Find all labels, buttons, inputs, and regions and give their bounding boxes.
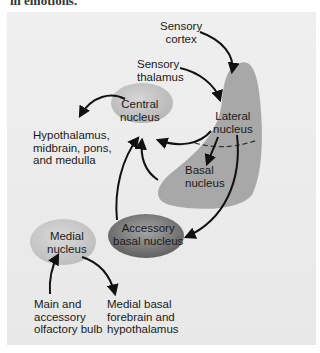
- arrow-sensory-thalamus-to-lateral: [180, 68, 220, 100]
- label-olfactory-bulb: Main and accessory olfactory bulb: [34, 298, 102, 336]
- arrow-sensory-cortex-to-lateral: [200, 32, 232, 72]
- arrow-lateral-to-central: [158, 131, 211, 144]
- arrow-accessory-to-central: [116, 138, 138, 220]
- arrow-basal-to-central: [142, 140, 158, 180]
- label-basal-nucleus: Basal nucleus: [185, 164, 225, 189]
- label-sensory-thalamus: Sensory thalamus: [137, 58, 184, 83]
- label-medial-basal-forebrain-hypothalamus: Medial basal forebrain and hypothalamus: [107, 298, 179, 336]
- label-sensory-cortex: Sensory cortex: [160, 20, 202, 45]
- label-central-nucleus: Central nucleus: [120, 98, 160, 123]
- label-accessory-basal-nucleus: Accessory basal nucleus: [113, 222, 183, 247]
- arrow-medial-to-forebrain: [82, 257, 115, 294]
- label-medial-nucleus: Medial nucleus: [47, 230, 87, 255]
- label-lateral-nucleus: Lateral nucleus: [213, 110, 253, 135]
- label-hypothalamus-midbrain-pons-medulla: Hypothalamus, midbrain, pons, and medull…: [33, 129, 112, 167]
